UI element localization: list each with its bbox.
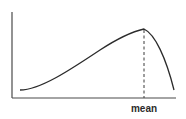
distribution-curve	[20, 29, 174, 90]
distribution-diagram	[0, 0, 186, 119]
mean-label: mean	[124, 103, 164, 115]
